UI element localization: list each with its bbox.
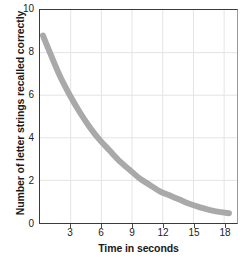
plot-area: [39, 9, 238, 224]
y-axis-title: Number of letter strings recalled correc…: [14, 7, 26, 219]
curve-path: [43, 36, 229, 214]
decay-curve: [40, 10, 237, 223]
x-tick-label-12: 12: [151, 227, 175, 238]
x-tick-label-3: 3: [58, 227, 82, 238]
x-tick-label-9: 9: [120, 227, 144, 238]
forgetting-curve-chart: 10 8 6 4 2 0 Number of letter strings re…: [0, 0, 249, 259]
x-tick-label-6: 6: [89, 227, 113, 238]
y-tick-label-0: 0: [0, 219, 34, 229]
x-axis-title: Time in seconds: [39, 242, 238, 254]
x-tick-label-15: 15: [182, 227, 206, 238]
x-tick-label-18: 18: [213, 227, 237, 238]
